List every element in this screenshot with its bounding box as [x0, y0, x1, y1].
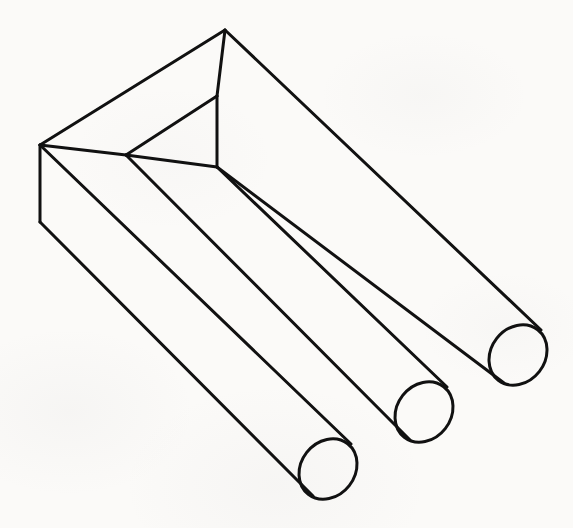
- middle-prong-upper-edge: [217, 167, 447, 387]
- impossible-trident-drawing: Impossible Trident: [0, 0, 573, 528]
- prong-middle-end-cap: [383, 370, 465, 454]
- prong-right-end-cap: [477, 313, 559, 397]
- notch-inner-left-base-edge: [126, 155, 217, 167]
- outer-left-long-edge: [40, 222, 313, 496]
- drawing-strokes: [40, 30, 559, 511]
- outer-right-long-edge: [225, 30, 541, 330]
- middle-prong-lower-edge: [126, 155, 410, 440]
- illusion-figure: Impossible Trident: [0, 0, 573, 528]
- prong-left-end-cap: [287, 427, 369, 511]
- block-top-face-edge-lower-left: [40, 145, 126, 155]
- block-notch-top-edge: [126, 96, 217, 155]
- block-top-face-edge-upper-right: [217, 30, 225, 96]
- right-prong-lower-edge: [217, 167, 504, 383]
- block-top-face-edge-upper-left: [40, 30, 225, 145]
- left-prong-upper-edge: [40, 145, 351, 444]
